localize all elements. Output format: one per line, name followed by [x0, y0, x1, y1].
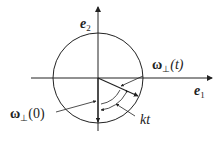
e1-label: e1 — [194, 84, 205, 100]
angle-arc-inner — [101, 90, 120, 104]
kt-label: kt — [140, 113, 150, 127]
e2-label: e2 — [80, 17, 91, 33]
omega-t-label: ω⊥(t) — [152, 58, 183, 74]
leader-omega-0 — [56, 101, 96, 112]
rotation-diagram: e2 e1 ω⊥(t) ω⊥(0) kt — [0, 0, 221, 143]
omega-0-label: ω⊥(0) — [10, 107, 45, 123]
angle-arc-outer — [101, 93, 126, 110]
